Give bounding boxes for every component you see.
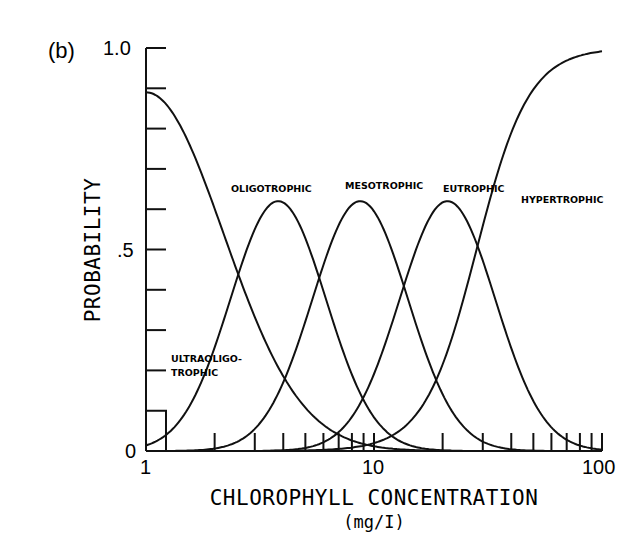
x-axis-unit: (mg/I) [343,512,404,532]
label-oligotrophic: OLIGOTROPHIC [231,183,312,194]
y-tick-label-mid: .5 [117,239,134,261]
curve-eutrophic [146,201,602,451]
label-hypertrophic: HYPERTROPHIC [521,194,603,205]
curves [146,51,602,451]
label-ultraoligotrophic-1: ULTRAOLIGO- [171,353,242,364]
curve-oligotrophic [146,201,602,451]
axes [146,48,602,451]
label-eutrophic: EUTROPHIC [443,183,505,194]
y-axis-title: PROBABILITY [81,178,105,323]
label-mesotrophic: MESOTROPHIC [345,180,423,191]
x-tick-label-100: 100 [582,456,615,478]
curve-ultraoligotrophic [146,92,602,451]
label-ultraoligotrophic-2: TROPHIC [171,367,218,378]
panel-label: (b) [48,38,75,63]
curve-hypertrophic [146,51,602,451]
curve-mesotrophic [146,201,602,451]
y-tick-label-zero: 0 [125,440,136,462]
x-tick-label-10: 10 [362,456,384,478]
x-tick-label-1: 1 [140,456,151,478]
x-axis-title: CHLOROPHYLL CONCENTRATION [210,486,539,510]
y-tick-label-top: 1.0 [103,37,131,59]
chart-canvas: (b) 1.0 .5 0 1 10 100 PROBABILITY CHLORO… [0,0,643,555]
